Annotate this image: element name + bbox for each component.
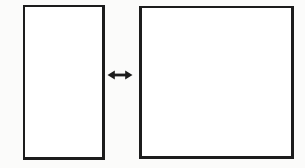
- right-rectangle[interactable]: [139, 6, 294, 159]
- left-rectangle[interactable]: [23, 5, 105, 160]
- diagram-canvas: [0, 0, 305, 168]
- double-arrow-horizontal-icon: [107, 65, 133, 85]
- double-headed-arrow: [107, 65, 133, 85]
